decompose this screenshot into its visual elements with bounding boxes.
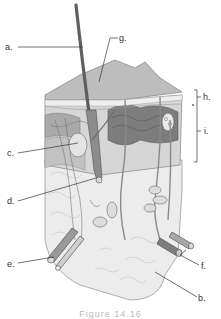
- label-c: c.: [7, 148, 14, 158]
- label-b: b.: [198, 293, 206, 303]
- figure-caption: Figure 14.16: [0, 309, 221, 319]
- label-a: a.: [5, 42, 13, 52]
- label-h: h.: [203, 92, 211, 102]
- label-f: f.: [201, 261, 206, 271]
- label-e: e.: [7, 259, 15, 269]
- label-g: g.: [119, 33, 127, 43]
- label-d: d.: [7, 196, 15, 206]
- label-i: i.: [204, 126, 209, 136]
